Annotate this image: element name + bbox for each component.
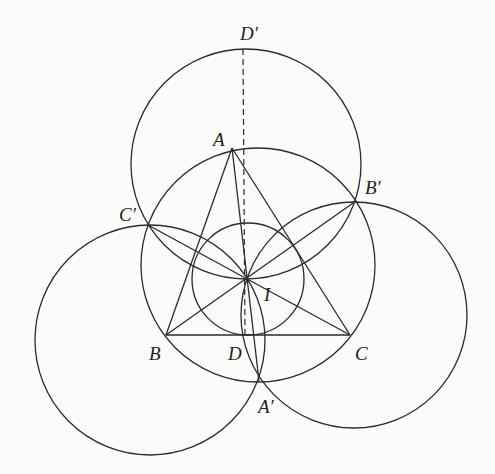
right-circle bbox=[241, 202, 467, 428]
circles-group bbox=[35, 49, 467, 455]
circumcircle bbox=[141, 148, 375, 382]
side-AC bbox=[232, 148, 350, 335]
label-C: C bbox=[355, 344, 368, 363]
label-C-prime: C′ bbox=[119, 205, 136, 224]
segments-group bbox=[148, 148, 356, 381]
top-circle-through-D-prime bbox=[131, 49, 361, 279]
label-B: B bbox=[149, 344, 161, 363]
label-D: D bbox=[228, 344, 242, 363]
geometry-figure bbox=[0, 0, 495, 474]
left-circle bbox=[35, 225, 265, 455]
label-I: I bbox=[264, 285, 270, 304]
label-A-prime: A′ bbox=[258, 397, 274, 416]
label-D-prime: D′ bbox=[240, 24, 258, 43]
label-A: A bbox=[213, 130, 225, 149]
line-B-B-prime bbox=[166, 201, 356, 335]
line-C-C-prime bbox=[148, 225, 350, 335]
label-B-prime: B′ bbox=[365, 178, 381, 197]
